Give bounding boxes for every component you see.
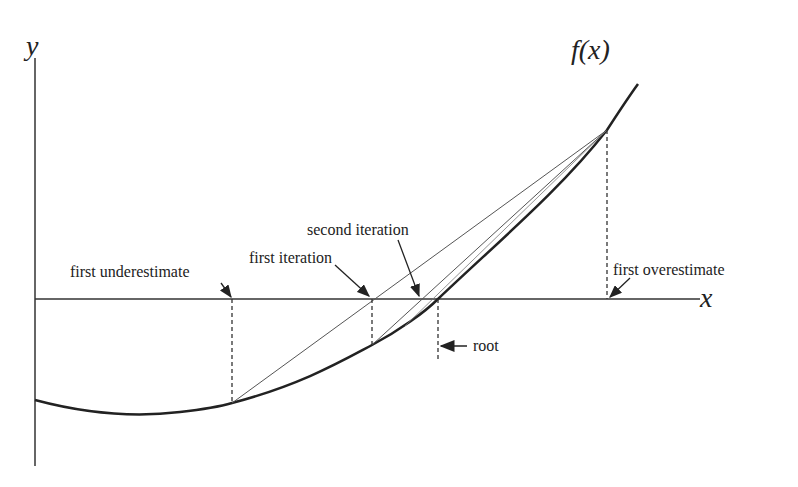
x-axis-label: x: [700, 284, 712, 312]
secant-line-3: [405, 130, 607, 326]
y-axis-label: y: [26, 32, 38, 60]
label-first-iteration: first iteration: [249, 250, 332, 266]
second-iteration-arrow: [398, 240, 419, 296]
function-label: f(x): [571, 36, 610, 64]
diagram-canvas: [0, 0, 798, 487]
label-second-iteration: second iteration: [307, 222, 409, 238]
function-curve: [35, 84, 638, 414]
label-first-underestimate: first underestimate: [70, 264, 190, 280]
underestimate-arrow: [221, 283, 231, 297]
label-first-overestimate: first overestimate: [613, 262, 725, 278]
first-iteration-arrow: [335, 265, 369, 296]
label-root: root: [473, 338, 499, 354]
overestimate-arrow: [610, 278, 630, 297]
secant-line-1: [232, 130, 607, 403]
